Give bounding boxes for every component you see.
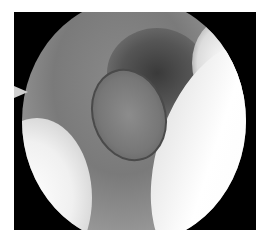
bright-tissue-left [22, 118, 92, 230]
endoscope-field-of-view [22, 12, 246, 230]
orientation-notch-marker [14, 86, 28, 98]
image-frame [14, 12, 256, 230]
